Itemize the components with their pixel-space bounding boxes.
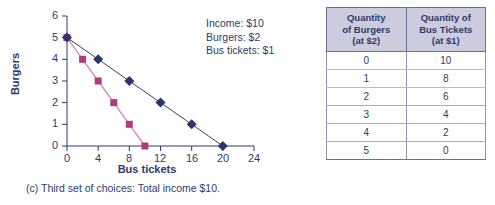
y-tick-label-3: 3 [44, 74, 58, 86]
annotation-bus-tickets: Bus tickets: $1 [206, 44, 274, 58]
cell-burgers: 2 [327, 87, 407, 105]
table-row: 1 8 [327, 69, 486, 87]
cell-bus-tickets: 8 [406, 69, 486, 87]
cell-burgers: 1 [327, 69, 407, 87]
y-tick-label-4: 4 [44, 52, 58, 64]
table-header-bus-tickets: Quantity of Bus Tickets (at $1) [406, 8, 486, 52]
y-tick-label-5: 5 [44, 31, 58, 43]
cell-bus-tickets: 10 [406, 51, 486, 69]
cell-burgers: 3 [327, 105, 407, 123]
x-tick-label-24: 24 [245, 152, 263, 164]
cell-burgers: 5 [327, 141, 407, 159]
budget-table-panel: Quantity of Burgers (at $2) Quantity of … [326, 7, 486, 160]
y-tick-label-2: 2 [44, 96, 58, 108]
cell-bus-tickets: 2 [406, 123, 486, 141]
header-burgers-line1: Quantity [347, 12, 386, 23]
chart-annotation-box: Income: $10 Burgers: $2 Bus tickets: $1 [206, 17, 274, 58]
header-burgers-line2: of Burgers [342, 24, 390, 35]
chart-panel: 0 1 2 3 4 5 6 0 4 8 12 16 20 24 Burgers … [0, 0, 300, 205]
blue-series-line [67, 38, 223, 146]
cell-bus-tickets: 6 [406, 87, 486, 105]
pink-series-line [67, 38, 145, 146]
cell-burgers: 0 [327, 51, 407, 69]
table-row: 2 6 [327, 87, 486, 105]
budget-table: Quantity of Burgers (at $2) Quantity of … [326, 7, 486, 160]
cell-bus-tickets: 0 [406, 141, 486, 159]
header-burgers-line3: (at $2) [352, 35, 380, 46]
header-bus-line2: Bus Tickets [419, 24, 472, 35]
cell-burgers: 4 [327, 123, 407, 141]
table-row: 3 4 [327, 105, 486, 123]
y-axis-title: Burgers [9, 43, 21, 105]
table-header-row: Quantity of Burgers (at $2) Quantity of … [327, 8, 486, 52]
table-row: 0 10 [327, 51, 486, 69]
table-row: 5 0 [327, 141, 486, 159]
header-bus-line3: (at $1) [432, 35, 460, 46]
figure-caption: (c) Third set of choices: Total income $… [26, 182, 220, 194]
y-tick-label-1: 1 [44, 117, 58, 129]
x-axis-title: Bus tickets [67, 163, 227, 175]
y-tick-label-6: 6 [44, 9, 58, 21]
annotation-income: Income: $10 [206, 17, 274, 31]
header-bus-line1: Quantity of [421, 12, 471, 23]
table-header-burgers: Quantity of Burgers (at $2) [327, 8, 407, 52]
annotation-burgers: Burgers: $2 [206, 31, 274, 45]
cell-bus-tickets: 4 [406, 105, 486, 123]
table-row: 4 2 [327, 123, 486, 141]
y-tick-label-0: 0 [44, 139, 58, 151]
